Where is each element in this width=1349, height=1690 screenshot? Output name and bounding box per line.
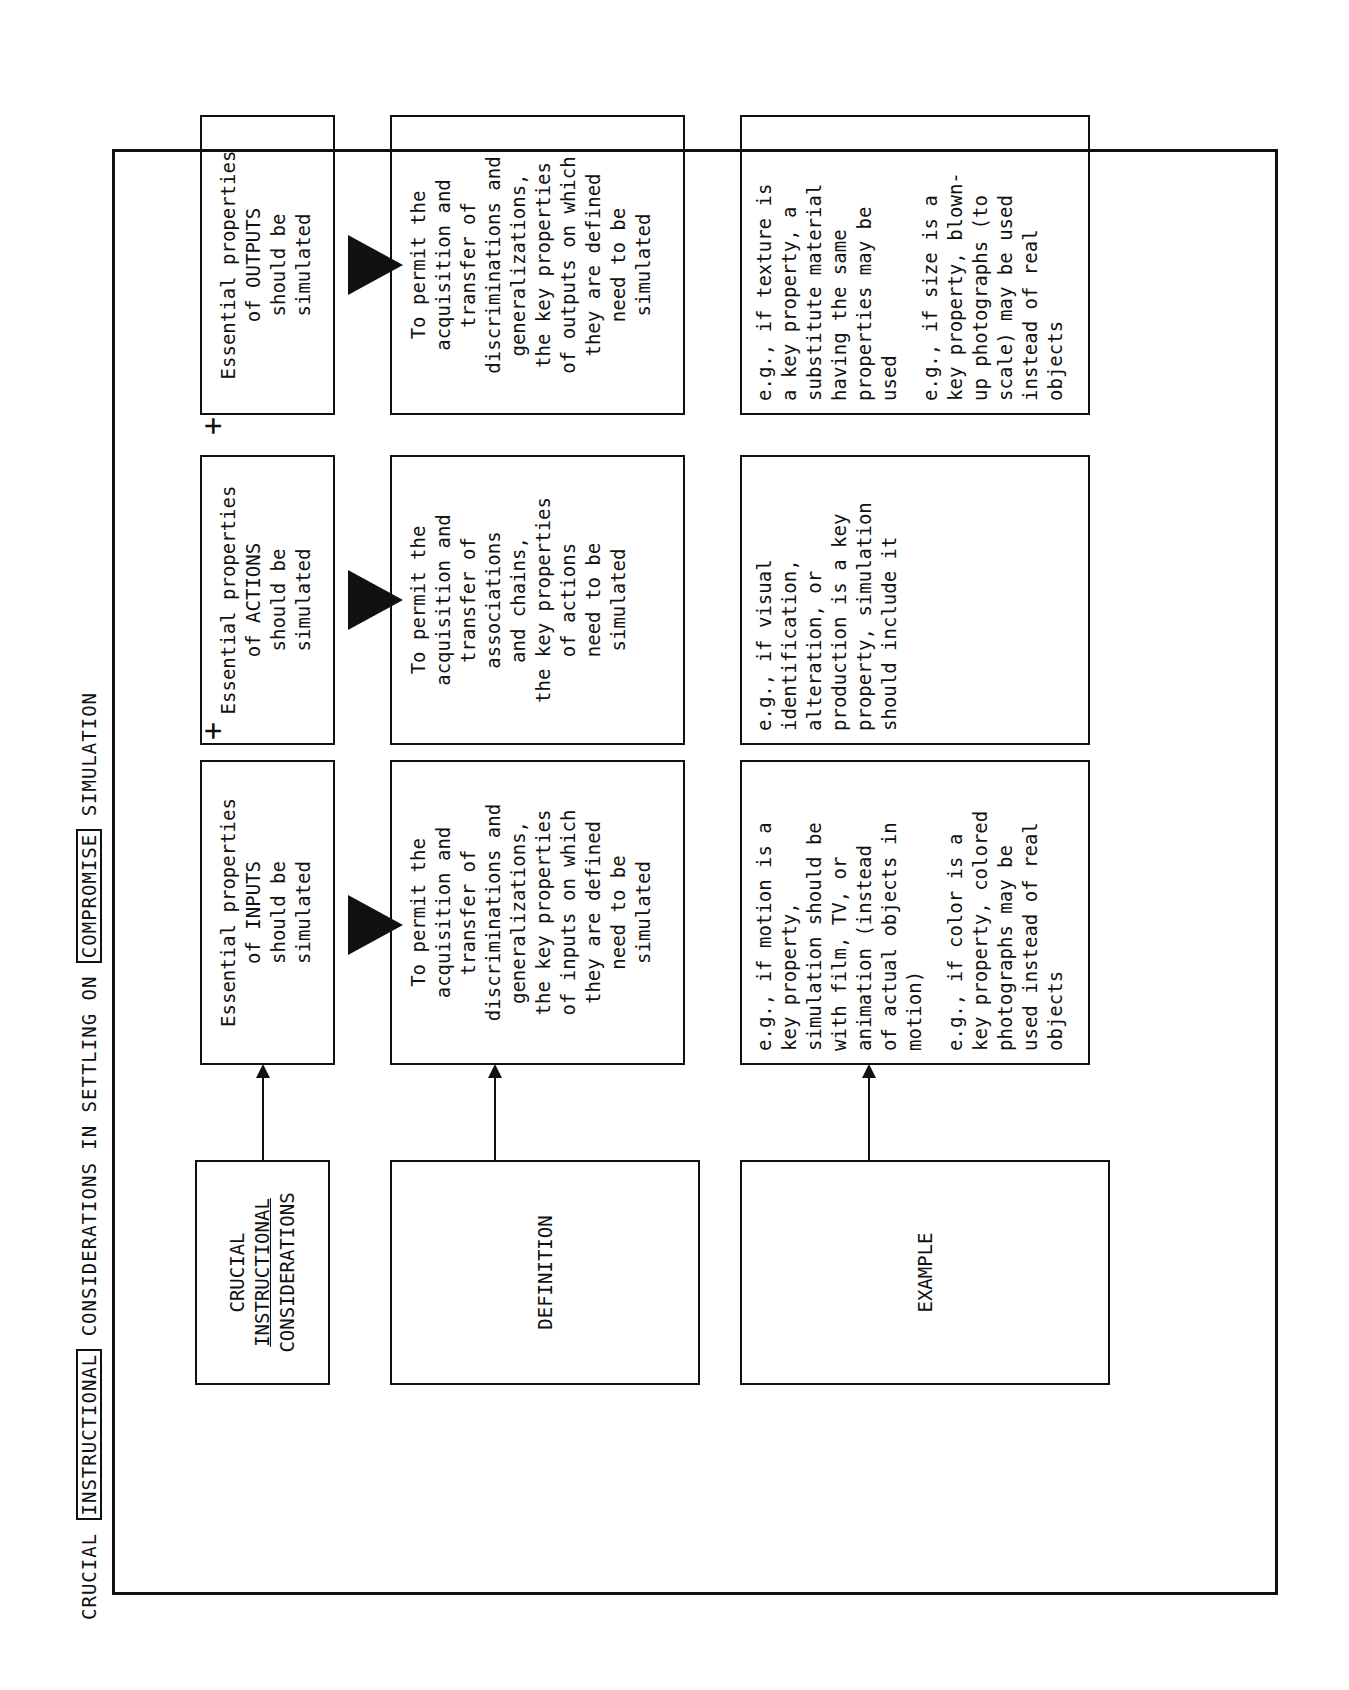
text-line: objects — [1043, 774, 1068, 1051]
text-line: substitute material — [802, 129, 827, 401]
example-actions: e.g., if visual identification, alterati… — [740, 455, 1090, 745]
text-line: e.g., if color is a — [943, 774, 968, 1051]
arrow-line — [494, 1070, 496, 1160]
text-line: should include it — [877, 469, 902, 731]
text-line: motion) — [902, 774, 927, 1051]
text-line: objects — [1043, 129, 1068, 401]
text-line: of inputs on which — [556, 762, 581, 1063]
text-line: having the same — [827, 129, 852, 401]
title-boxed-word: COMPROMISE — [76, 829, 102, 963]
text-line: photographs may be — [993, 774, 1018, 1051]
text-line: simulation should be — [802, 774, 827, 1051]
text-line: instead of real — [1018, 129, 1043, 401]
text-line: To permit the — [406, 762, 431, 1063]
text-line: acquisition and — [431, 457, 456, 743]
text-line: discriminations and — [481, 762, 506, 1063]
text-line: simulated — [291, 457, 316, 743]
text-line: e.g., if motion is a — [752, 774, 777, 1051]
text-line: key property, blown- — [943, 129, 968, 401]
definition-inputs: To permit the acquisition and transfer o… — [390, 760, 685, 1065]
text-line: used — [877, 129, 902, 401]
text-line: used instead of real — [1018, 774, 1043, 1051]
text-line: simulated — [631, 117, 656, 413]
label-line: CRUCIAL — [225, 1192, 250, 1352]
title-text: SIMULATION — [78, 692, 100, 829]
text-line: transfer of — [456, 457, 481, 743]
text-line: of actual objects in — [877, 774, 902, 1051]
text-line: transfer of — [456, 117, 481, 413]
text-line: key property, — [777, 774, 802, 1051]
text-line: and chains, — [506, 457, 531, 743]
text-line: of ACTIONS — [241, 457, 266, 743]
definition-outputs: To permit the acquisition and transfer o… — [390, 115, 685, 415]
text-line: e.g., if texture is — [752, 129, 777, 401]
label-line: INSTRUCTIONAL — [250, 1192, 275, 1352]
text-line: Essential properties — [216, 762, 241, 1063]
definition-actions: To permit the acquisition and transfer o… — [390, 455, 685, 745]
text-line: alteration, or — [802, 469, 827, 731]
text-line: simulated — [606, 457, 631, 743]
title-boxed-word: INSTRUCTIONAL — [76, 1349, 102, 1521]
text-line: the key properties — [531, 457, 556, 743]
text-line: they are defined — [581, 117, 606, 413]
rotated-page: CRUCIAL INSTRUCTIONAL CONSIDERATIONS IN … — [0, 0, 1349, 1690]
text-line: a key property, a — [777, 129, 802, 401]
text-line: of INPUTS — [241, 762, 266, 1063]
text-line: property, simulation — [852, 469, 877, 731]
arrow-head-icon — [256, 1064, 270, 1078]
arrow-head-icon — [862, 1064, 876, 1078]
text-line: animation (instead — [852, 774, 877, 1051]
arrow-line — [868, 1070, 870, 1160]
text-line: generalizations, — [506, 117, 531, 413]
text-line: the key properties — [531, 117, 556, 413]
text-line: need to be — [606, 117, 631, 413]
text-line: need to be — [581, 457, 606, 743]
text-line: with film, TV, or — [827, 774, 852, 1051]
title-text: CRUCIAL — [78, 1520, 100, 1620]
arrow-head-icon — [488, 1064, 502, 1078]
text-line: e.g., if visual — [752, 469, 777, 731]
text-line: of outputs on which — [556, 117, 581, 413]
title-text: CONSIDERATIONS IN SETTLING ON — [78, 963, 100, 1349]
heading-inputs: Essential properties of INPUTS should be… — [200, 760, 335, 1065]
text-line: identification, — [777, 469, 802, 731]
example-outputs: e.g., if texture is a key property, a su… — [740, 115, 1090, 415]
label-text: EXAMPLE — [913, 1232, 938, 1312]
text-line: should be — [266, 117, 291, 413]
text-line: of actions — [556, 457, 581, 743]
text-line: To permit the — [406, 117, 431, 413]
text-line: Essential properties — [216, 117, 241, 413]
text-line: should be — [266, 762, 291, 1063]
heading-actions: Essential properties of ACTIONS should b… — [200, 455, 335, 745]
text-line: simulated — [631, 762, 656, 1063]
text-line: production is a key — [827, 469, 852, 731]
page-title: CRUCIAL INSTRUCTIONAL CONSIDERATIONS IN … — [78, 692, 100, 1620]
text-line: they are defined — [581, 762, 606, 1063]
label-example: EXAMPLE — [740, 1160, 1110, 1385]
text-line: Essential properties — [216, 457, 241, 743]
plus-icon: + — [195, 417, 230, 435]
text-line: should be — [266, 457, 291, 743]
text-line: To permit the — [406, 457, 431, 743]
text-line: simulated — [291, 762, 316, 1063]
text-line: e.g., if size is a — [918, 129, 943, 401]
heading-outputs: Essential properties of OUTPUTS should b… — [200, 115, 335, 415]
text-line: associations — [481, 457, 506, 743]
text-line: of OUTPUTS — [241, 117, 266, 413]
text-line: acquisition and — [431, 762, 456, 1063]
text-line: need to be — [606, 762, 631, 1063]
label-considerations: CRUCIAL INSTRUCTIONAL CONSIDERATIONS — [195, 1160, 330, 1385]
text-line: generalizations, — [506, 762, 531, 1063]
text-line: properties may be — [852, 129, 877, 401]
text-line: key property, colored — [968, 774, 993, 1051]
text-line: the key properties — [531, 762, 556, 1063]
text-line: up photographs (to — [968, 129, 993, 401]
label-definition: DEFINITION — [390, 1160, 700, 1385]
label-line: CONSIDERATIONS — [275, 1192, 300, 1352]
example-inputs: e.g., if motion is a key property, simul… — [740, 760, 1090, 1065]
text-line: acquisition and — [431, 117, 456, 413]
text-line: simulated — [291, 117, 316, 413]
arrow-line — [262, 1070, 264, 1160]
text-line: discriminations and — [481, 117, 506, 413]
text-line: transfer of — [456, 762, 481, 1063]
